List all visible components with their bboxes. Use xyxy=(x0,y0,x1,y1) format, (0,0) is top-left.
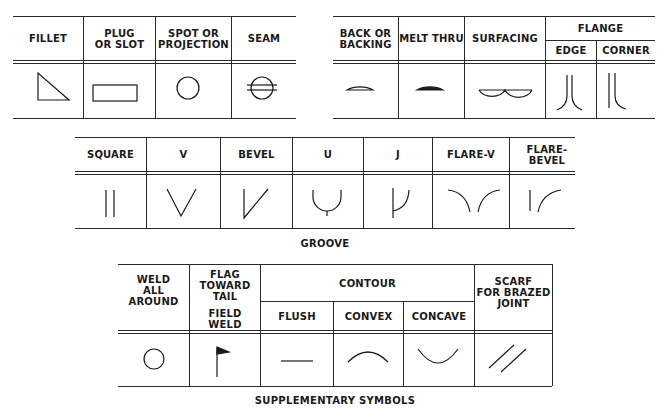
scarf-double-slash-icon xyxy=(0,0,664,410)
supplementary-caption: SUPPLEMENTARY SYMBOLS xyxy=(118,395,552,406)
